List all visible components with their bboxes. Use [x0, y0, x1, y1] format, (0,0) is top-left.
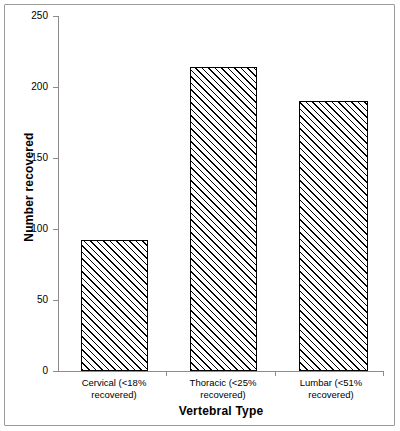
y-tick-100: [53, 229, 58, 230]
x-tick-1: [166, 371, 167, 376]
x-tick-2: [275, 371, 276, 376]
bar-lumbar: [299, 101, 368, 371]
y-tick-0: [53, 371, 58, 372]
x-category-label-thoracic-line1: Thoracic (<25%: [190, 377, 257, 388]
y-axis-line: [58, 16, 59, 372]
bar-chart-figure: 250 200 150 100 50 0 Number recovered Ce…: [0, 0, 400, 431]
y-tick-label-0: 0: [42, 366, 48, 376]
bar-cervical: [81, 240, 148, 371]
y-axis-title: Number recovered: [22, 107, 36, 267]
x-axis-line: [58, 371, 384, 372]
y-tick-label-250: 250: [31, 11, 48, 21]
y-tick-200: [53, 87, 58, 88]
x-category-label-lumbar-line1: Lumbar (<51% recovered): [300, 377, 363, 400]
y-tick-250: [53, 16, 58, 17]
x-category-label-thoracic: Thoracic (<25% recovered): [171, 377, 275, 400]
bar-thoracic: [190, 67, 257, 371]
x-tick-3: [383, 371, 384, 376]
y-tick-50: [53, 300, 58, 301]
x-category-label-cervical-line2: recovered): [91, 389, 136, 400]
y-tick-label-50: 50: [37, 295, 48, 305]
y-tick-150: [53, 158, 58, 159]
x-category-label-cervical-line1: Cervical (<18%: [82, 377, 147, 388]
x-category-label-cervical: Cervical (<18% recovered): [62, 377, 166, 400]
x-axis-title: Vertebral Type: [58, 404, 384, 418]
x-category-label-lumbar: Lumbar (<51% recovered): [276, 377, 386, 400]
x-category-label-thoracic-line2: recovered): [200, 389, 245, 400]
y-tick-label-200: 200: [31, 82, 48, 92]
